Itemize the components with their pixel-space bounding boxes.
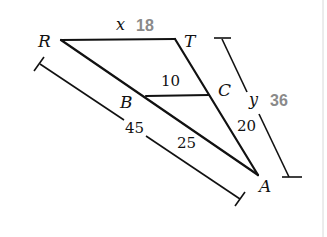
segment-BC — [146, 95, 209, 96]
vertex-label-C: C — [218, 80, 231, 100]
segment-TA-answer: 36 — [270, 92, 288, 109]
segment-RA-length: 45 — [125, 119, 144, 137]
segment-BA-length: 25 — [177, 134, 196, 152]
segment-RA — [61, 40, 258, 175]
segment-RT-variable: x — [116, 15, 125, 34]
segment-TA-variable: y — [248, 90, 259, 109]
segment-RT-answer: 18 — [136, 17, 154, 34]
segment-BC-length: 10 — [161, 72, 180, 90]
similar-triangles-diagram: R T B C A x 18 10 45 25 20 y 36 — [0, 0, 327, 237]
vertex-label-A: A — [257, 176, 271, 196]
segment-CA-length: 20 — [237, 117, 256, 135]
vertex-label-B: B — [119, 92, 133, 112]
segment-RT — [61, 39, 175, 40]
vertex-label-T: T — [184, 31, 197, 51]
vertex-label-R: R — [37, 31, 51, 51]
segment-TA — [175, 39, 258, 175]
